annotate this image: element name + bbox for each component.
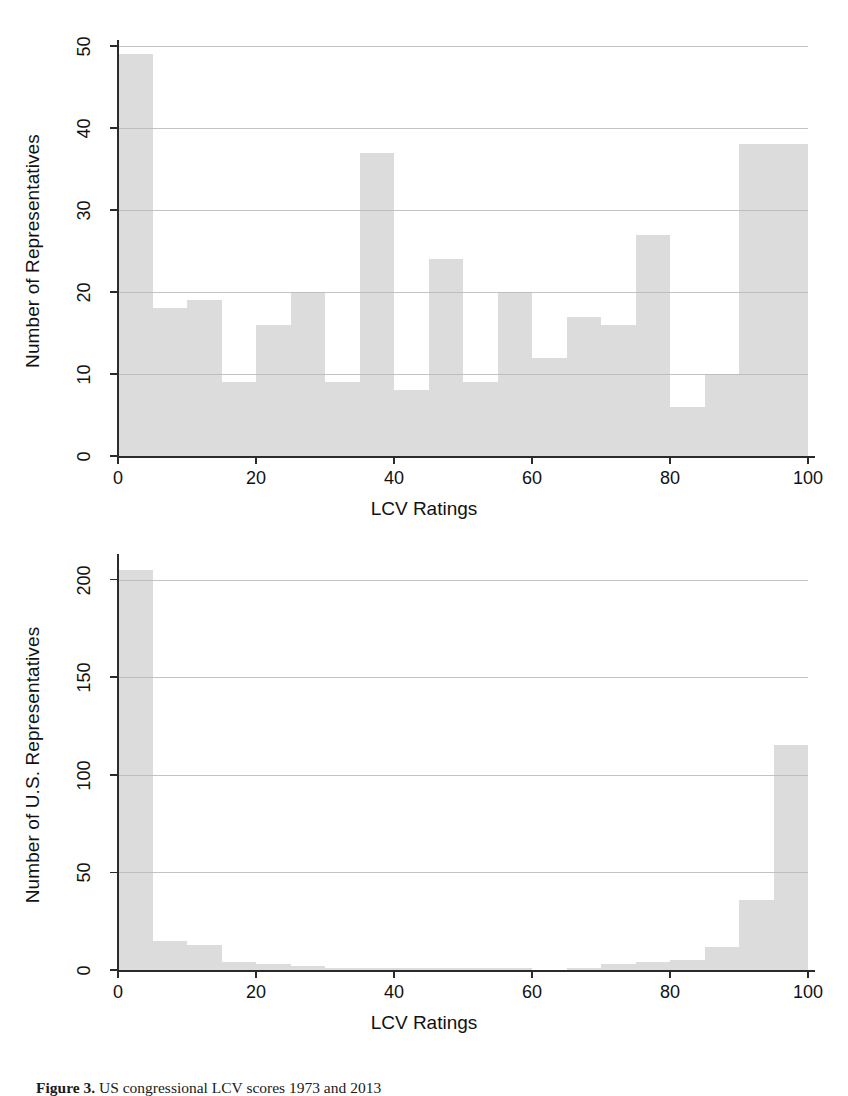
- x-axis-tick-label: 20: [226, 468, 286, 489]
- x-axis-tick: [393, 971, 395, 978]
- x-axis-tick-label: 0: [88, 468, 148, 489]
- x-axis-tick: [255, 457, 257, 464]
- x-axis-title-top: LCV Ratings: [0, 498, 848, 520]
- x-axis-tick-label: 20: [226, 982, 286, 1003]
- x-axis-title-bottom: LCV Ratings: [0, 1012, 848, 1034]
- y-axis-tick: [110, 774, 117, 776]
- histogram-bar: [705, 374, 740, 456]
- gridline: [118, 292, 808, 293]
- y-axis-tick-label: 40: [74, 107, 95, 151]
- histogram-bar: [153, 941, 188, 970]
- x-axis-tick-label: 60: [502, 468, 562, 489]
- histogram-bar: [118, 54, 153, 456]
- x-axis-tick: [807, 971, 809, 978]
- y-axis-tick-label: 30: [74, 189, 95, 233]
- gridline: [118, 46, 808, 47]
- y-axis-title-bottom: Number of U.S. Representatives: [22, 560, 44, 970]
- y-axis-title-top: Number of Representatives: [22, 46, 44, 456]
- histogram-bar: [360, 153, 395, 456]
- bars-group-top: [118, 46, 808, 456]
- gridline: [118, 872, 808, 873]
- figure-caption-text: US congressional LCV scores 1973 and 201…: [95, 1079, 381, 1096]
- y-axis-tick: [110, 373, 117, 375]
- x-axis-tick: [669, 971, 671, 978]
- gridline: [118, 677, 808, 678]
- y-axis-tick: [110, 209, 117, 211]
- x-axis-tick: [255, 971, 257, 978]
- histogram-bar: [601, 325, 636, 456]
- x-axis-tick-label: 100: [778, 982, 838, 1003]
- y-axis-line: [117, 554, 119, 970]
- histogram-bar: [636, 962, 671, 970]
- histogram-bar: [532, 358, 567, 456]
- histogram-bar: [774, 144, 809, 456]
- x-axis-tick: [807, 457, 809, 464]
- histogram-bar: [429, 259, 464, 456]
- chart-panel-top: Number of Representatives LCV Ratings 01…: [0, 0, 848, 536]
- histogram-bar: [153, 308, 188, 456]
- gridline: [118, 210, 808, 211]
- y-axis-tick-label: 150: [74, 656, 95, 700]
- y-axis-tick-label: 10: [74, 353, 95, 397]
- histogram-bar: [636, 235, 671, 456]
- x-axis-tick-label: 80: [640, 468, 700, 489]
- x-axis-tick-label: 100: [778, 468, 838, 489]
- histogram-bar: [774, 745, 809, 970]
- x-axis-tick-label: 0: [88, 982, 148, 1003]
- y-axis-tick: [110, 872, 117, 874]
- figure-caption: Figure 3. US congressional LCV scores 19…: [36, 1078, 826, 1096]
- y-axis-tick: [110, 127, 117, 129]
- x-axis-line: [117, 970, 815, 972]
- x-axis-tick-label: 60: [502, 982, 562, 1003]
- y-axis-tick-label: 50: [74, 25, 95, 69]
- histogram-bar: [325, 382, 360, 456]
- chart-panel-bottom: Number of U.S. Representatives LCV Ratin…: [0, 536, 848, 1050]
- y-axis-tick: [110, 579, 117, 581]
- histogram-bar: [705, 947, 740, 970]
- gridline: [118, 374, 808, 375]
- y-axis-tick: [110, 676, 117, 678]
- y-axis-tick-label: 100: [74, 753, 95, 797]
- bars-group-bottom: [118, 560, 808, 970]
- x-axis-tick: [669, 457, 671, 464]
- x-axis-tick: [117, 971, 119, 978]
- plot-area-top: [118, 46, 808, 456]
- histogram-bar: [739, 900, 774, 970]
- x-axis-tick: [531, 457, 533, 464]
- y-axis-tick: [110, 45, 117, 47]
- histogram-bar: [118, 570, 153, 970]
- y-axis-tick: [110, 291, 117, 293]
- x-axis-tick-label: 40: [364, 468, 424, 489]
- histogram-bar: [394, 390, 429, 456]
- histogram-bar: [670, 960, 705, 970]
- histogram-bar: [187, 300, 222, 456]
- histogram-bar: [222, 962, 257, 970]
- y-axis-tick: [110, 969, 117, 971]
- histogram-bar: [739, 144, 774, 456]
- x-axis-tick: [531, 971, 533, 978]
- x-axis-line: [117, 456, 815, 458]
- y-axis-tick-label: 20: [74, 271, 95, 315]
- figure-caption-label: Figure 3.: [36, 1079, 95, 1096]
- y-axis-tick-label: 200: [74, 558, 95, 602]
- histogram-bar: [256, 325, 291, 456]
- histogram-bar: [670, 407, 705, 456]
- histogram-bar: [187, 945, 222, 970]
- gridline: [118, 128, 808, 129]
- histogram-bar: [567, 317, 602, 456]
- histogram-bar: [222, 382, 257, 456]
- y-axis-tick: [110, 455, 117, 457]
- plot-area-bottom: [118, 560, 808, 970]
- gridline: [118, 775, 808, 776]
- figure-container: Number of Representatives LCV Ratings 01…: [0, 0, 848, 1096]
- y-axis-tick-label: 50: [74, 851, 95, 895]
- x-axis-tick: [117, 457, 119, 464]
- x-axis-tick: [393, 457, 395, 464]
- x-axis-tick-label: 80: [640, 982, 700, 1003]
- gridline: [118, 580, 808, 581]
- x-axis-tick-label: 40: [364, 982, 424, 1003]
- histogram-bar: [463, 382, 498, 456]
- y-axis-line: [117, 40, 119, 456]
